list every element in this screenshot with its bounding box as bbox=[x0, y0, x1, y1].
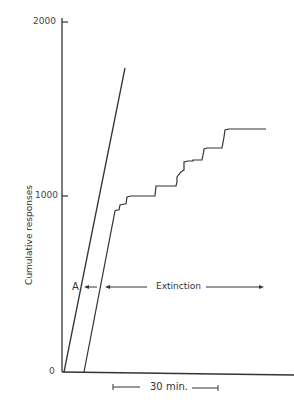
y-axis-label: Cumulative responses bbox=[24, 180, 34, 290]
annotation-extinction: Extinction bbox=[156, 281, 201, 291]
extinction-arrow-right-head bbox=[259, 285, 264, 289]
annotation-a: A bbox=[72, 281, 79, 292]
y-tick-label-1000: 1000 bbox=[35, 190, 58, 200]
y-tick-label-0: 0 bbox=[49, 366, 55, 376]
cumulative-record-chart bbox=[0, 0, 294, 405]
scale-bar-label: 30 min. bbox=[150, 381, 188, 392]
series-a-line bbox=[64, 68, 125, 372]
extinction-arrow-left-head bbox=[105, 285, 110, 289]
x-axis bbox=[62, 372, 294, 375]
series-extinction-line bbox=[84, 129, 266, 372]
a-arrow-head bbox=[84, 285, 89, 289]
y-tick-label-2000: 2000 bbox=[33, 16, 56, 26]
